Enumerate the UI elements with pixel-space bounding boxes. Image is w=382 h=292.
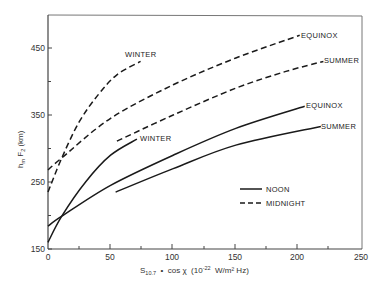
label-noon-winter: WINTER xyxy=(140,134,172,143)
x-tick-150: 150 xyxy=(228,252,242,262)
x-tick-200: 200 xyxy=(290,252,304,262)
label-midnight-equinox: EQUINOX xyxy=(301,31,338,40)
curve-midnight-equinox xyxy=(48,35,300,170)
curve-noon-winter xyxy=(48,139,137,242)
chart: 150 250 350 450 0 50 100 150 200 250 S10… xyxy=(0,0,382,292)
label-noon-equinox: EQUINOX xyxy=(306,101,343,110)
curve-midnight-summer xyxy=(117,61,324,141)
y-tick-150: 150 xyxy=(31,244,45,254)
x-tick-250: 250 xyxy=(354,252,368,262)
y-tick-250: 250 xyxy=(31,177,45,187)
curves xyxy=(48,35,323,242)
legend: NOON MIDNIGHT xyxy=(240,185,306,208)
curve-noon-equinox xyxy=(48,106,305,226)
label-midnight-winter: WINTER xyxy=(125,50,157,59)
y-tick-450: 450 xyxy=(31,43,45,53)
y-tick-350: 350 xyxy=(31,110,45,120)
x-ticks xyxy=(79,244,328,249)
x-tick-100: 100 xyxy=(165,252,179,262)
x-axis-title: S10.7 • cos χ (10-22 W/m² Hz) xyxy=(140,265,249,276)
legend-noon: NOON xyxy=(266,185,290,194)
x-tick-0: 0 xyxy=(46,252,51,262)
plot-frame xyxy=(48,15,362,249)
legend-midnight: MIDNIGHT xyxy=(266,199,306,208)
label-noon-summer: SUMMER xyxy=(321,122,356,131)
label-midnight-summer: SUMMER xyxy=(324,56,359,65)
y-axis-title: hm F2 (km) xyxy=(16,130,26,168)
x-tick-50: 50 xyxy=(105,252,115,262)
